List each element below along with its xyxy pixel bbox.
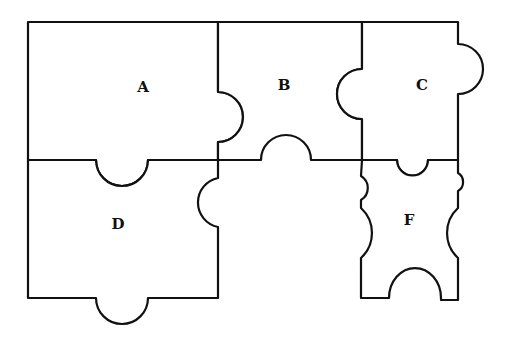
puzzle-piece-f [361, 160, 463, 300]
piece-label-a: A [137, 78, 149, 96]
piece-label-b: B [278, 76, 291, 94]
piece-label-c: C [416, 76, 428, 94]
puzzle-diagram [0, 0, 513, 346]
piece-label-f: F [404, 211, 415, 229]
piece-label-d: D [111, 215, 124, 233]
